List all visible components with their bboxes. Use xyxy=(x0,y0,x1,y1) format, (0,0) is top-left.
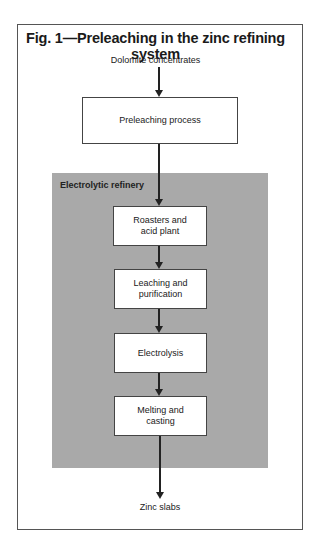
arrow-head-icon xyxy=(155,90,163,97)
arrow-line xyxy=(158,309,160,327)
step-label: Roasters and acid plant xyxy=(133,215,187,237)
arrow-line xyxy=(158,67,160,91)
arrow-head-icon xyxy=(155,389,163,396)
arrow-line xyxy=(158,246,160,263)
output-label: Zinc slabs xyxy=(0,502,311,512)
step-label: Melting and casting xyxy=(137,405,184,427)
arrow-line xyxy=(158,373,160,390)
region-label: Electrolytic refinery xyxy=(60,180,144,190)
step-melting-casting: Melting and casting xyxy=(114,396,207,436)
step-label: Leaching and purification xyxy=(133,278,187,300)
step-label: Electrolysis xyxy=(138,348,184,359)
arrow-head-icon xyxy=(155,262,163,269)
step-label: Preleaching process xyxy=(119,115,201,126)
step-leaching-purification: Leaching and purification xyxy=(114,269,207,309)
step-electrolysis: Electrolysis xyxy=(114,333,207,373)
arrow-head-icon xyxy=(156,492,164,499)
input-label: Dolomite concentrates xyxy=(0,55,311,65)
step-roasters-acid-plant: Roasters and acid plant xyxy=(113,206,207,246)
step-preleaching-process: Preleaching process xyxy=(82,97,238,144)
arrow-head-icon xyxy=(155,326,163,333)
arrow-head-icon xyxy=(155,199,163,206)
arrow-line xyxy=(158,144,160,200)
arrow-line xyxy=(159,436,161,493)
